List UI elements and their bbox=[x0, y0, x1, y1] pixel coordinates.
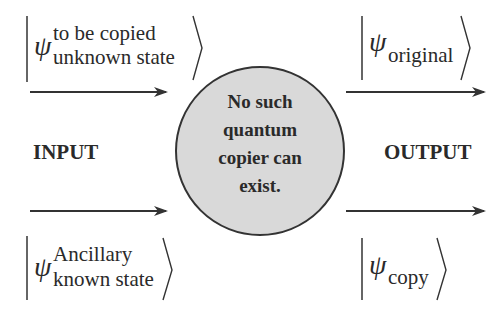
ket-angle-input-bottom bbox=[163, 238, 172, 300]
ancillary-state-sup: Ancillary bbox=[53, 243, 132, 265]
output-original-sub: original bbox=[388, 44, 453, 66]
psi-symbol: ψ bbox=[34, 251, 51, 283]
input-state-sub: unknown state bbox=[53, 46, 175, 68]
center-line: quantum bbox=[175, 116, 345, 144]
ket-angle-input-top bbox=[193, 16, 202, 80]
psi-symbol: ψ bbox=[34, 30, 51, 62]
center-line: No such bbox=[175, 88, 345, 116]
ket-angle-output-bottom bbox=[437, 238, 446, 300]
psi-symbol: ψ bbox=[369, 249, 386, 281]
center-line: copier can bbox=[175, 144, 345, 172]
output-label: OUTPUT bbox=[384, 140, 472, 165]
input-label: INPUT bbox=[33, 140, 98, 165]
psi-symbol: ψ bbox=[369, 26, 386, 58]
ket-angle-output-top bbox=[461, 16, 470, 80]
input-state-sup: to be copied bbox=[53, 22, 156, 44]
center-text: No such quantum copier can exist. bbox=[175, 88, 345, 200]
output-copy-sub: copy bbox=[388, 266, 429, 288]
center-line: exist. bbox=[175, 172, 345, 200]
ancillary-state-sub: known state bbox=[53, 268, 154, 290]
